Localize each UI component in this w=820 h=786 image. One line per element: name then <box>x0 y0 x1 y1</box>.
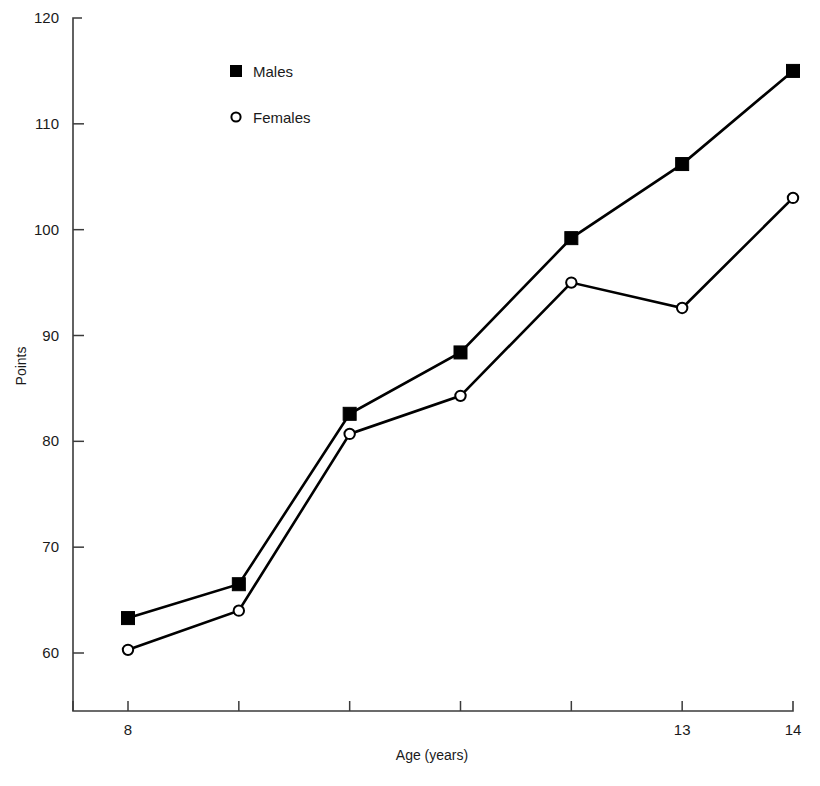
data-point-marker <box>455 391 465 401</box>
legend-entry-females: Females <box>231 109 310 126</box>
y-tick-label-90: 90 <box>42 327 59 344</box>
y-tick-label-70: 70 <box>42 538 59 555</box>
y-tick-label-120: 120 <box>34 9 59 26</box>
legend-marker-filled-square-icon <box>231 66 242 77</box>
x-tick-label-13: 13 <box>674 721 691 738</box>
series-line-males <box>128 71 793 618</box>
x-tick-label-14: 14 <box>785 721 802 738</box>
data-point-marker <box>676 158 689 171</box>
series-line-females <box>128 198 793 650</box>
y-tick-label-110: 110 <box>35 115 59 132</box>
series-males <box>122 64 800 624</box>
data-point-marker <box>566 277 576 287</box>
x-axis-title: Age (years) <box>396 747 468 763</box>
data-point-marker <box>234 605 244 615</box>
series-females <box>123 193 798 655</box>
x-axis-ticks <box>128 701 682 711</box>
y-axis-tick-labels: 60708090100110120 <box>34 9 59 661</box>
line-chart: 60708090100110120 81314 Points Age (year… <box>0 0 820 786</box>
y-axis-title: Points <box>13 347 29 386</box>
x-axis-tick-labels: 81314 <box>124 721 802 738</box>
data-point-marker <box>123 645 133 655</box>
legend-label-females: Females <box>253 109 311 126</box>
data-point-marker <box>788 193 798 203</box>
data-point-marker <box>677 303 687 313</box>
axes-group: 60708090100110120 81314 <box>34 9 801 738</box>
series-group <box>122 64 800 655</box>
data-point-marker <box>565 232 578 245</box>
legend-label-males: Males <box>253 63 293 80</box>
data-point-marker <box>122 612 135 625</box>
data-point-marker <box>787 64 800 77</box>
y-tick-label-100: 100 <box>34 221 59 238</box>
legend-entry-males: Males <box>231 63 294 80</box>
legend-marker-open-circle-icon <box>231 112 240 121</box>
y-axis-line <box>73 18 82 711</box>
y-tick-label-80: 80 <box>42 432 59 449</box>
x-axis-line <box>73 701 793 711</box>
data-point-marker <box>343 407 356 420</box>
chart-container: 60708090100110120 81314 Points Age (year… <box>0 0 820 786</box>
data-point-marker <box>232 578 245 591</box>
x-tick-label-8: 8 <box>124 721 132 738</box>
data-point-marker <box>454 346 467 359</box>
y-tick-label-60: 60 <box>42 644 59 661</box>
data-point-marker <box>344 429 354 439</box>
chart-legend: MalesFemales <box>231 63 311 126</box>
y-axis-ticks <box>73 124 84 653</box>
